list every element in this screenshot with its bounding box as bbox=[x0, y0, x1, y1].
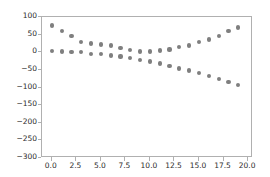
y-axis-tick-label: −150 bbox=[16, 100, 37, 108]
x-axis-tick-mark bbox=[223, 157, 224, 161]
scatter-point bbox=[187, 43, 191, 47]
scatter-point bbox=[50, 49, 54, 53]
x-axis-tick-label: 15.0 bbox=[190, 162, 207, 170]
scatter-point bbox=[138, 58, 142, 62]
scatter-point bbox=[177, 66, 181, 70]
scatter-point bbox=[109, 43, 113, 47]
scatter-point bbox=[207, 74, 211, 78]
chart-figure: 100500−50−100−150−200−250−300 0.02.55.07… bbox=[0, 0, 270, 177]
scatter-point bbox=[197, 71, 201, 75]
scatter-point bbox=[109, 53, 113, 57]
x-axis-tick-mark bbox=[75, 157, 76, 161]
scatter-point bbox=[217, 34, 221, 38]
x-axis-tick-label: 17.5 bbox=[214, 162, 231, 170]
x-axis-tick-mark bbox=[247, 157, 248, 161]
scatter-point bbox=[207, 37, 211, 41]
x-axis-tick-mark bbox=[124, 157, 125, 161]
scatter-point bbox=[167, 64, 171, 68]
scatter-point bbox=[187, 68, 191, 72]
y-axis-tick-mark bbox=[38, 157, 42, 158]
scatter-point bbox=[118, 54, 122, 58]
scatter-point bbox=[89, 52, 93, 56]
scatter-point bbox=[236, 25, 240, 29]
y-axis-tick-label: −100 bbox=[16, 83, 37, 91]
scatter-point bbox=[217, 77, 221, 81]
scatter-point bbox=[99, 52, 103, 56]
scatter-point bbox=[99, 42, 103, 46]
x-axis-tick-label: 5.0 bbox=[94, 162, 106, 170]
scatter-point bbox=[50, 23, 54, 27]
scatter-point bbox=[197, 40, 201, 44]
plot-area bbox=[41, 16, 252, 157]
y-axis-tick-label: 0 bbox=[32, 47, 37, 55]
x-axis-tick-mark bbox=[198, 157, 199, 161]
x-axis-tick-label: 20.0 bbox=[239, 162, 256, 170]
y-axis-tick-labels: 100500−50−100−150−200−250−300 bbox=[0, 0, 37, 177]
scatter-point bbox=[89, 41, 93, 45]
y-axis-tick-label: −200 bbox=[16, 118, 37, 126]
x-axis-tick-mark bbox=[149, 157, 150, 161]
scatter-point bbox=[148, 59, 152, 63]
y-axis-tick-label: −50 bbox=[21, 65, 37, 73]
scatter-point bbox=[158, 48, 162, 52]
scatter-point bbox=[128, 56, 132, 60]
scatter-point bbox=[79, 50, 83, 54]
x-axis-tick-label: 12.5 bbox=[165, 162, 182, 170]
x-axis-tick-label: 2.5 bbox=[69, 162, 81, 170]
scatter-point bbox=[60, 49, 64, 53]
scatter-point bbox=[128, 48, 132, 52]
scatter-point bbox=[118, 46, 122, 50]
scatter-point bbox=[69, 34, 73, 38]
scatter-point bbox=[177, 45, 181, 49]
x-axis-tick-mark bbox=[100, 157, 101, 161]
y-axis-tick-label: −300 bbox=[16, 153, 37, 161]
x-axis-tick-labels: 0.02.55.07.510.012.515.017.520.0 bbox=[0, 162, 270, 176]
scatter-point bbox=[60, 29, 64, 33]
scatter-point bbox=[226, 29, 230, 33]
y-axis-tick-label: 100 bbox=[23, 12, 37, 20]
scatter-point bbox=[138, 49, 142, 53]
scatter-point bbox=[236, 83, 240, 87]
scatter-point bbox=[158, 61, 162, 65]
x-axis-tick-label: 10.0 bbox=[141, 162, 158, 170]
x-axis-tick-mark bbox=[173, 157, 174, 161]
scatter-point bbox=[167, 47, 171, 51]
x-axis-tick-mark bbox=[51, 157, 52, 161]
scatter-point bbox=[226, 80, 230, 84]
scatter-point bbox=[69, 50, 73, 54]
y-axis-tick-label: 50 bbox=[27, 30, 37, 38]
scatter-point bbox=[79, 40, 83, 44]
x-axis-tick-label: 7.5 bbox=[118, 162, 130, 170]
y-axis-tick-label: −250 bbox=[16, 135, 37, 143]
scatter-point bbox=[148, 49, 152, 53]
x-axis-tick-label: 0.0 bbox=[45, 162, 57, 170]
